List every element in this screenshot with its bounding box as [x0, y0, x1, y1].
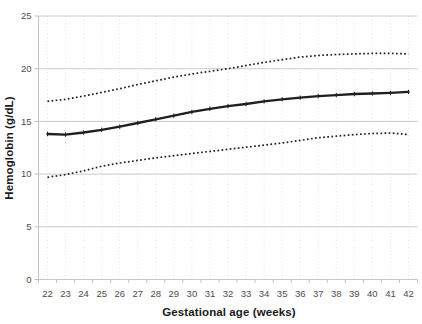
x-tick-label-23: 23 — [60, 288, 71, 299]
y-tick-label-10: 10 — [21, 168, 32, 179]
x-tick-label-26: 26 — [114, 288, 125, 299]
y-tick-label-20: 20 — [21, 63, 32, 74]
x-tick-label-38: 38 — [331, 288, 342, 299]
x-tick-label-31: 31 — [205, 288, 216, 299]
x-tick-label-37: 37 — [313, 288, 324, 299]
x-tick-label-41: 41 — [385, 288, 396, 299]
x-tick-label-33: 33 — [241, 288, 252, 299]
y-tick-label-25: 25 — [21, 10, 32, 21]
x-tick-label-22: 22 — [42, 288, 53, 299]
x-tick-label-34: 34 — [259, 288, 270, 299]
y-tick-label-15: 15 — [21, 116, 32, 127]
x-tick-label-42: 42 — [403, 288, 414, 299]
x-tick-label-39: 39 — [349, 288, 360, 299]
x-tick-label-25: 25 — [96, 288, 107, 299]
y-tick-label-0: 0 — [26, 274, 31, 285]
x-tick-label-36: 36 — [295, 288, 306, 299]
x-tick-label-32: 32 — [223, 288, 234, 299]
x-tick-label-27: 27 — [132, 288, 143, 299]
x-tick-label-29: 29 — [169, 288, 180, 299]
x-axis-title: Gestational age (weeks) — [39, 306, 419, 318]
y-axis-title: Hemoglobin (g/dL) — [3, 96, 15, 199]
x-tick-label-28: 28 — [151, 288, 162, 299]
x-tick-label-24: 24 — [78, 288, 89, 299]
x-tick-label-35: 35 — [277, 288, 288, 299]
chart-plot-area: 0510152025222324252627282930313233343536… — [0, 0, 422, 324]
x-tick-label-30: 30 — [187, 288, 198, 299]
x-tick-label-40: 40 — [367, 288, 378, 299]
hemoglobin-gestational-age-chart: 0510152025222324252627282930313233343536… — [0, 0, 422, 324]
y-tick-label-5: 5 — [26, 221, 31, 232]
